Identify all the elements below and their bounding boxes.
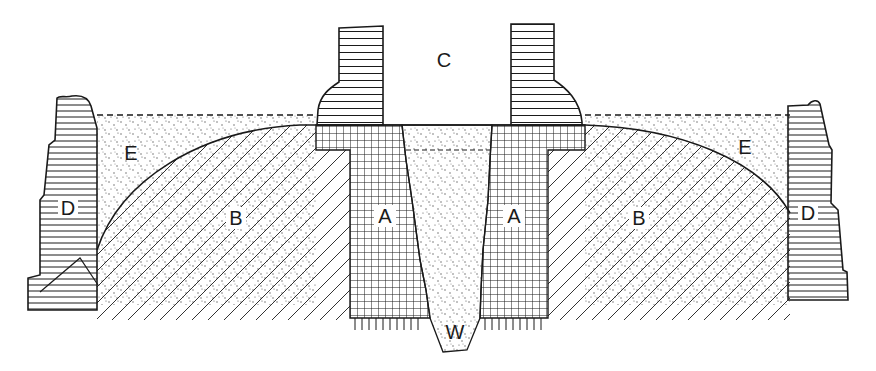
label-d-right: D [798,202,818,224]
svg-text:D: D [801,202,815,224]
label-a-right: A [503,205,525,227]
pillar-c-right [511,24,582,125]
pillar-c-left [317,26,383,125]
label-w: W [446,321,465,343]
svg-text:C: C [437,49,451,71]
label-d-left: D [58,196,78,219]
svg-text:A: A [507,205,521,227]
svg-text:B: B [229,207,242,229]
label-e-right: E [738,136,751,158]
svg-text:W: W [446,321,465,343]
svg-text:E: E [738,136,751,158]
wall-d-right [788,101,848,300]
label-a-left: A [374,205,396,227]
svg-text:D: D [61,197,75,219]
cross-section-diagram: C E E D D B B A A W [0,0,876,371]
label-b-right: B [629,207,649,229]
label-e-left: E [124,142,137,164]
svg-text:B: B [632,207,645,229]
svg-text:A: A [378,205,392,227]
label-b-left: B [226,207,246,229]
svg-text:E: E [124,142,137,164]
label-c: C [437,49,451,71]
